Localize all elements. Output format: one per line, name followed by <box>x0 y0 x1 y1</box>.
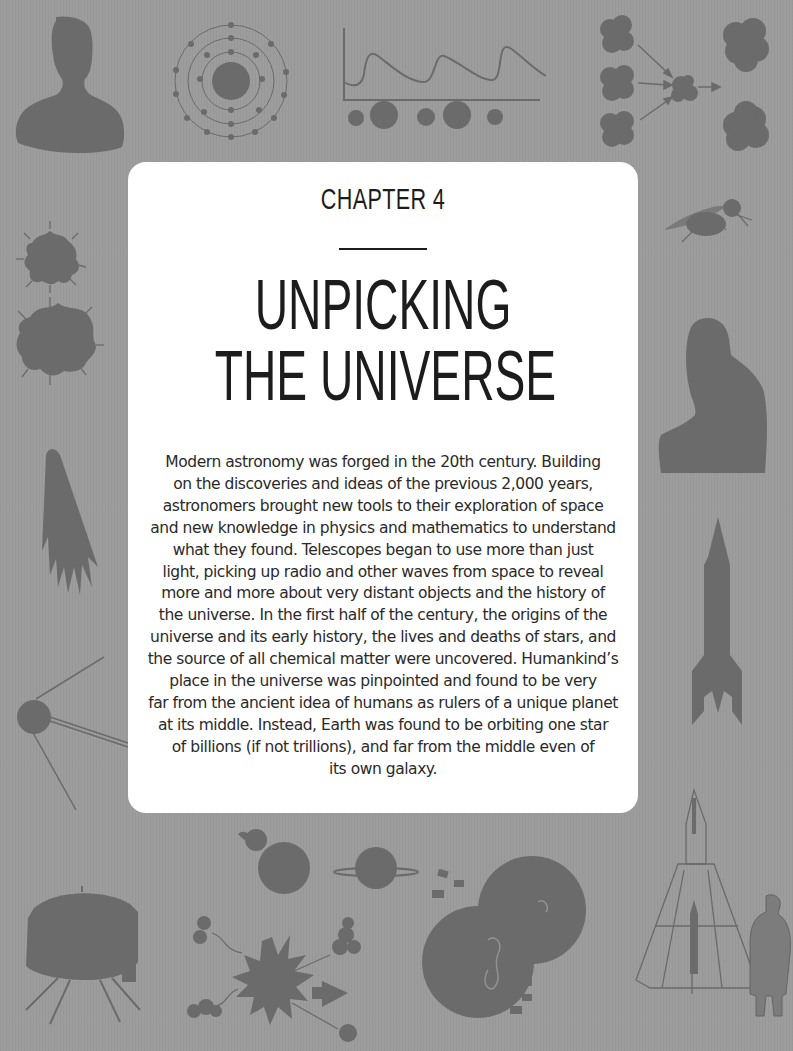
paragraph-line: astronomers brought new tools to their e… <box>128 496 638 518</box>
comet-icon <box>38 447 103 597</box>
space-probe-icon <box>24 882 144 1027</box>
atom-icon <box>173 22 289 140</box>
earth-collision-icon <box>418 850 588 1020</box>
supernova-icon <box>182 915 357 1040</box>
paragraph-line: more and more about very distant objects… <box>128 583 638 605</box>
chapter-title-line-1: UNPICKING <box>215 270 552 341</box>
fly-icon <box>662 190 762 250</box>
planets-icon <box>234 826 414 901</box>
person-silhouette-icon <box>8 15 123 155</box>
paragraph-line: on the discoveries and ideas of the prev… <box>128 474 638 496</box>
paragraph-line: of billions (if not trillions), and far … <box>128 737 638 759</box>
paragraph-line: far from the ancient idea of humans as r… <box>128 693 638 715</box>
paragraph-line: its own galaxy. <box>128 759 638 781</box>
chapter-intro-paragraph: Modern astronomy was forged in the 20th … <box>128 452 638 781</box>
chapter-intro-panel: CHAPTER 4 UNPICKING THE UNIVERSE Modern … <box>128 162 638 813</box>
paragraph-line: place in the universe was pinpointed and… <box>128 671 638 693</box>
sputnik-icon <box>12 655 132 815</box>
v2-rocket-icon <box>690 515 744 735</box>
chapter-title: UNPICKING THE UNIVERSE <box>215 270 552 412</box>
paragraph-line: light, picking up radio and other waves … <box>128 562 638 584</box>
paragraph-line: universe and its early history, the live… <box>128 627 638 649</box>
seated-person-silhouette-icon <box>655 315 775 475</box>
expanding-universe-icon <box>10 215 100 405</box>
nuclear-fusion-icon <box>598 15 778 150</box>
paragraph-line: at its middle. Instead, Earth was found … <box>128 715 638 737</box>
paragraph-line: what they found. Telescopes began to use… <box>128 540 638 562</box>
paragraph-line: the source of all chemical matter were u… <box>128 649 638 671</box>
chapter-label: CHAPTER 4 <box>199 182 566 216</box>
paragraph-line: and new knowledge in physics and mathema… <box>128 518 638 540</box>
title-divider <box>339 248 427 250</box>
spectrum-graph-icon <box>342 26 552 134</box>
paragraph-line: the universe. In the first half of the c… <box>128 605 638 627</box>
paragraph-line: Modern astronomy was forged in the 20th … <box>128 452 638 474</box>
goddard-rocket-icon <box>606 784 786 1019</box>
chapter-title-line-2: THE UNIVERSE <box>215 341 552 412</box>
